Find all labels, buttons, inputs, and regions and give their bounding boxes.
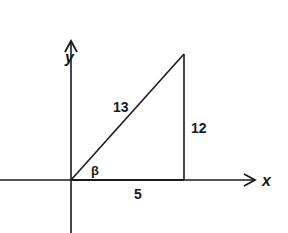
y-axis-label: y bbox=[64, 49, 75, 66]
angle-beta-label: β bbox=[91, 163, 99, 178]
x-axis-label: x bbox=[261, 172, 272, 189]
hypotenuse-side bbox=[71, 54, 184, 180]
diagram-canvas: y x 13 12 5 β bbox=[0, 0, 288, 233]
adjacent-label: 5 bbox=[134, 186, 142, 202]
hypotenuse-label: 13 bbox=[113, 99, 129, 115]
opposite-label: 12 bbox=[191, 120, 207, 136]
